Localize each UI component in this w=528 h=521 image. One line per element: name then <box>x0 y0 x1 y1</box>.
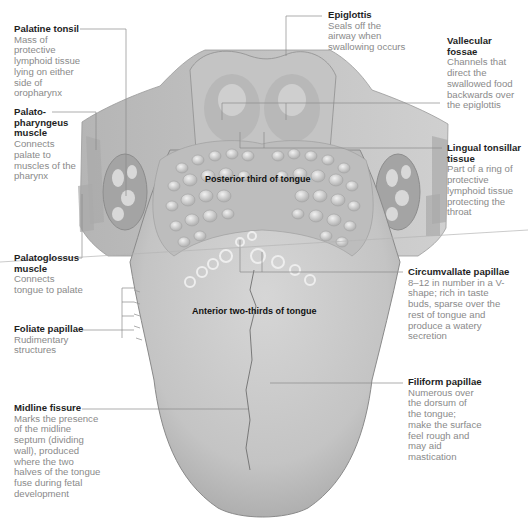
label-vallecular: Vallecular fossae Channels that direct t… <box>447 36 517 111</box>
tongue-diagram: Posterior third of tongue Anterior two-t… <box>0 0 528 521</box>
palatine-tonsil-left <box>103 154 147 230</box>
label-desc: Seals off the airway when swallowing occ… <box>328 21 408 53</box>
label-desc: Numerous over the dorsum of the tongue; … <box>408 388 482 463</box>
tongue-body <box>130 141 400 517</box>
label-desc: 8–12 in number in a V-shape; rich in tas… <box>408 278 512 342</box>
label-lingual-tonsillar: Lingual tonsillar tissue Part of a ring … <box>447 143 527 218</box>
label-circumvallate: Circumvallate papillae 8–12 in number in… <box>408 267 512 342</box>
label-desc: Mass of protective lymphoid tissue lying… <box>14 35 90 99</box>
label-desc: Part of a ring of protective lymphoid ti… <box>447 164 527 218</box>
label-midline-fissure: Midline fissure Marks the presence of th… <box>14 403 104 499</box>
label-palatoglossus: Palatoglossus muscle Connects tongue to … <box>14 253 84 296</box>
label-desc: Rudimentary structures <box>14 335 84 356</box>
region-label-posterior: Posterior third of tongue <box>205 174 311 184</box>
label-foliate: Foliate papillae Rudimentary structures <box>14 324 84 356</box>
label-epiglottis: Epiglottis Seals off the airway when swa… <box>328 10 408 53</box>
label-palatine-tonsil: Palatine tonsil Mass of protective lymph… <box>14 24 90 99</box>
label-desc: Marks the presence of the midline septum… <box>14 414 104 500</box>
label-desc: Connects tongue to palate <box>14 274 84 295</box>
label-desc: Channels that direct the swallowed food … <box>447 57 517 111</box>
label-palatopharyngeus: Palato- pharyngeus muscle Connects palat… <box>14 107 80 182</box>
epiglottis <box>190 51 336 150</box>
label-filiform: Filiform papillae Numerous over the dors… <box>408 377 482 463</box>
label-desc: Connects palate to muscles of the pharyn… <box>14 139 80 182</box>
region-label-anterior: Anterior two-thirds of tongue <box>192 306 316 316</box>
